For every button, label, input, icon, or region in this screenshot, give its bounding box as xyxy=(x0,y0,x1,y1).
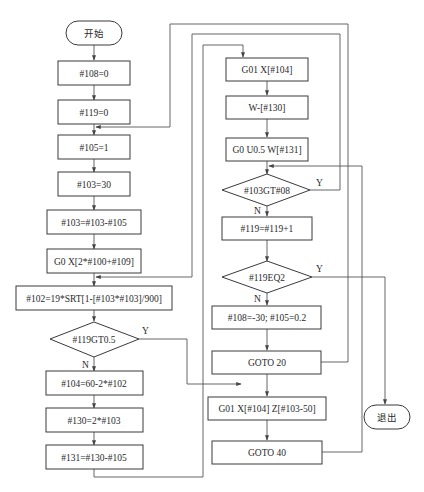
node-label: #119=#119+1 xyxy=(241,224,294,234)
node-130-calc: #130=2*#103 xyxy=(46,408,143,432)
node-label: #108=0 xyxy=(79,69,108,79)
node-label: #102=19*SRT[1-[#103*#103]/900] xyxy=(26,294,162,304)
node-119-inc: #119=#119+1 xyxy=(222,217,312,240)
node-exit: 退出 xyxy=(364,405,410,429)
node-w-130: W-[#130] xyxy=(226,96,308,119)
node-label: G0 X[2*#100+#109] xyxy=(54,257,134,267)
node-label: 开始 xyxy=(84,28,104,39)
connectors-right xyxy=(267,81,385,452)
node-g01-x104: G01 X[#104] xyxy=(226,58,308,81)
node-label: #119GT0.5 xyxy=(72,335,115,345)
node-label: GOTO 20 xyxy=(248,358,286,368)
node-label: #103=30 xyxy=(77,180,111,190)
label-d3-no: N xyxy=(254,294,261,304)
node-131-calc: #131=#130-#105 xyxy=(46,445,143,469)
node-label: G0 U0.5 W[#131] xyxy=(232,145,301,155)
decision-119-gt-0-5: #119GT0.5 xyxy=(50,322,139,357)
node-label: #119EQ2 xyxy=(249,273,285,283)
node-103-minus-105: #103=#103-#105 xyxy=(47,210,141,234)
node-108-105-set: #108=-30; #105=0.2 xyxy=(212,306,321,329)
node-label: #108=-30; #105=0.2 xyxy=(228,313,307,323)
node-goto-40: GOTO 40 xyxy=(212,441,322,464)
node-start: 开始 xyxy=(66,21,122,45)
decision-103-gt-08: #103GT#08 xyxy=(222,174,310,206)
label-d1-no: N xyxy=(82,360,89,370)
node-105-1: #105=1 xyxy=(58,135,130,159)
label-d2-yes: Y xyxy=(316,178,323,188)
node-g0-u-w: G0 U0.5 W[#131] xyxy=(226,138,308,161)
node-104-calc: #104=60-2*#102 xyxy=(46,371,143,395)
node-label: 退出 xyxy=(377,412,397,423)
node-119-0: #119=0 xyxy=(58,100,130,124)
node-108-0: #108=0 xyxy=(58,61,130,85)
node-goto-20: GOTO 20 xyxy=(212,351,321,374)
node-label: #103GT#08 xyxy=(244,186,290,196)
node-103-30: #103=30 xyxy=(58,172,130,196)
node-label: GOTO 40 xyxy=(248,448,286,458)
node-g0-x: G0 X[2*#100+#109] xyxy=(47,249,141,273)
node-g01-x-z: G01 X[#104] Z[#103-50] xyxy=(208,397,326,420)
node-label: #104=60-2*#102 xyxy=(61,379,127,389)
decision-119-eq-2: #119EQ2 xyxy=(222,261,312,293)
node-label: W-[#130] xyxy=(249,103,286,113)
node-label: G01 X[#104] xyxy=(242,65,293,75)
node-102-calc: #102=19*SRT[1-[#103*#103]/900] xyxy=(16,286,172,310)
label-d2-no: N xyxy=(254,206,261,216)
node-label: #131=#130-#105 xyxy=(61,453,127,463)
label-d1-yes: Y xyxy=(142,326,149,336)
node-label: #119=0 xyxy=(80,108,109,118)
label-d3-yes: Y xyxy=(316,264,323,274)
node-label: #130=2*#103 xyxy=(68,416,121,426)
flowchart: Y N Y N Y N 开始 #108=0 #119=0 #105=1 #103… xyxy=(0,0,424,492)
node-label: #105=1 xyxy=(79,143,108,153)
node-label: G01 X[#104] Z[#103-50] xyxy=(218,404,315,414)
node-label: #103=#103-#105 xyxy=(61,218,127,228)
